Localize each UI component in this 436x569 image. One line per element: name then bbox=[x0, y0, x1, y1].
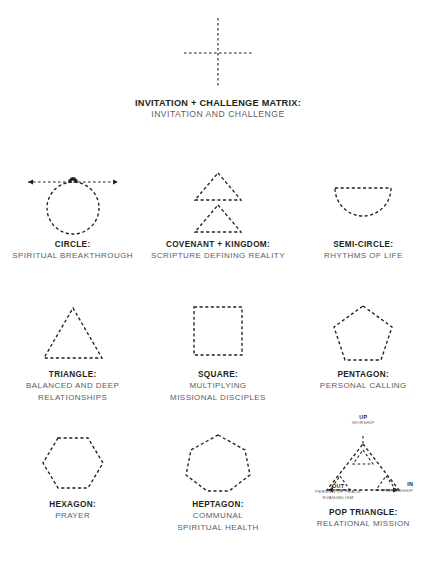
shape-subtitle-line: RELATIONSHIPS bbox=[0, 392, 145, 404]
shapes-grid: CIRCLE: SPIRITUAL BREAKTHROUGH COVENANT … bbox=[0, 165, 436, 555]
shape-subtitle-line: SCRIPTURE DEFINING REALITY bbox=[145, 250, 290, 262]
shape-title: COVENANT + KINGDOM: bbox=[145, 239, 290, 250]
shape-subtitle: PERSONAL CALLING bbox=[291, 380, 436, 392]
shape-subtitle-line: MULTIPLYING bbox=[145, 380, 290, 392]
dashed-pop-triangle-icon: UP WORSHIP OUT PERSON OF PE bbox=[291, 429, 436, 497]
shape-subtitle-line: BALANCED AND DEEP bbox=[0, 380, 145, 392]
shape-caption: CIRCLE: SPIRITUAL BREAKTHROUGH bbox=[0, 239, 145, 262]
pop-up-sub: WORSHIP bbox=[352, 420, 375, 425]
shape-cell-hexagon: HEXAGON: PRAYER bbox=[0, 425, 145, 555]
shape-title: HEXAGON: bbox=[0, 499, 145, 510]
shape-caption: HEXAGON: PRAYER bbox=[0, 499, 145, 522]
shape-subtitle: PRAYER bbox=[0, 510, 145, 522]
shape-title: CIRCLE: bbox=[0, 239, 145, 250]
shape-subtitle: SCRIPTURE DEFINING REALITY bbox=[145, 250, 290, 262]
shape-subtitle-line: PRAYER bbox=[0, 510, 145, 522]
shape-cell-pop-triangle: UP WORSHIP OUT PERSON OF PE bbox=[291, 425, 436, 555]
shape-subtitle-line: RHYTHMS OF LIFE bbox=[291, 250, 436, 262]
pop-label-out: OUT PERSON OF PEACE EVANGELISM bbox=[315, 483, 361, 500]
shape-subtitle-line: COMMUNAL bbox=[145, 510, 290, 522]
shape-subtitle: RELATIONAL MISSION bbox=[291, 518, 436, 530]
featured-subtitle: INVITATION AND CHALLENGE bbox=[0, 109, 436, 121]
shape-title: SQUARE: bbox=[145, 369, 290, 380]
shape-subtitle: MULTIPLYING MISSIONAL DISCIPLES bbox=[145, 380, 290, 403]
pop-out-sub-line1: PERSON OF PEACE bbox=[315, 489, 361, 494]
shape-cell-triangle: TRIANGLE: BALANCED AND DEEP RELATIONSHIP… bbox=[0, 295, 145, 425]
shape-subtitle: COMMUNAL SPIRITUAL HEALTH bbox=[145, 510, 290, 533]
dashed-heptagon-icon bbox=[145, 429, 290, 497]
shape-subtitle: RHYTHMS OF LIFE bbox=[291, 250, 436, 262]
shape-title: TRIANGLE: bbox=[0, 369, 145, 380]
shape-title: SEMI-CIRCLE: bbox=[291, 239, 436, 250]
shape-caption: PENTAGON: PERSONAL CALLING bbox=[291, 369, 436, 392]
dashed-triangle-icon bbox=[0, 299, 145, 367]
shape-caption: TRIANGLE: BALANCED AND DEEP RELATIONSHIP… bbox=[0, 369, 145, 403]
pop-label-up: UP WORSHIP bbox=[352, 414, 375, 426]
shape-caption: COVENANT + KINGDOM: SCRIPTURE DEFINING R… bbox=[145, 239, 290, 262]
shape-caption: SEMI-CIRCLE: RHYTHMS OF LIFE bbox=[291, 239, 436, 262]
shape-subtitle-line: SPIRITUAL HEALTH bbox=[145, 522, 290, 534]
shape-caption: POP TRIANGLE: RELATIONAL MISSION bbox=[291, 507, 436, 530]
shape-subtitle: BALANCED AND DEEP RELATIONSHIPS bbox=[0, 380, 145, 403]
shape-title: HEPTAGON: bbox=[145, 499, 290, 510]
shape-title: POP TRIANGLE: bbox=[291, 507, 436, 518]
dashed-cross-matrix-icon bbox=[0, 14, 436, 92]
shape-cell-circle: CIRCLE: SPIRITUAL BREAKTHROUGH bbox=[0, 165, 145, 295]
pop-out-sub-line2: EVANGELISM bbox=[315, 495, 361, 500]
shape-subtitle-line: RELATIONAL MISSION bbox=[291, 518, 436, 530]
discipleship-shapes-poster: INVITATION + CHALLENGE MATRIX: INVITATIO… bbox=[0, 0, 436, 569]
shape-subtitle-line: SPIRITUAL BREAKTHROUGH bbox=[0, 250, 145, 262]
shape-cell-square: SQUARE: MULTIPLYING MISSIONAL DISCIPLES bbox=[145, 295, 290, 425]
shape-caption: HEPTAGON: COMMUNAL SPIRITUAL HEALTH bbox=[145, 499, 290, 533]
pop-in-sub: FELLOWSHIP bbox=[383, 488, 414, 493]
dashed-square-icon bbox=[145, 299, 290, 367]
dashed-pentagon-icon bbox=[291, 299, 436, 367]
featured-caption: INVITATION + CHALLENGE MATRIX: INVITATIO… bbox=[0, 98, 436, 121]
dashed-double-triangle-icon bbox=[145, 169, 290, 237]
shape-caption: SQUARE: MULTIPLYING MISSIONAL DISCIPLES bbox=[145, 369, 290, 403]
shape-subtitle-line: MISSIONAL DISCIPLES bbox=[145, 392, 290, 404]
shape-subtitle: SPIRITUAL BREAKTHROUGH bbox=[0, 250, 145, 262]
featured-title: INVITATION + CHALLENGE MATRIX: bbox=[0, 98, 436, 109]
dashed-hexagon-icon bbox=[0, 429, 145, 497]
shape-title: PENTAGON: bbox=[291, 369, 436, 380]
featured-matrix-block: INVITATION + CHALLENGE MATRIX: INVITATIO… bbox=[0, 14, 436, 121]
dashed-circle-with-arrow-icon bbox=[0, 169, 145, 237]
shape-cell-pentagon: PENTAGON: PERSONAL CALLING bbox=[291, 295, 436, 425]
shape-cell-heptagon: HEPTAGON: COMMUNAL SPIRITUAL HEALTH bbox=[145, 425, 290, 555]
shape-cell-semi-circle: SEMI-CIRCLE: RHYTHMS OF LIFE bbox=[291, 165, 436, 295]
dashed-semicircle-icon bbox=[291, 169, 436, 237]
pop-label-in: IN FELLOWSHIP bbox=[383, 481, 414, 493]
shape-cell-covenant-kingdom: COVENANT + KINGDOM: SCRIPTURE DEFINING R… bbox=[145, 165, 290, 295]
shape-subtitle-line: PERSONAL CALLING bbox=[291, 380, 436, 392]
